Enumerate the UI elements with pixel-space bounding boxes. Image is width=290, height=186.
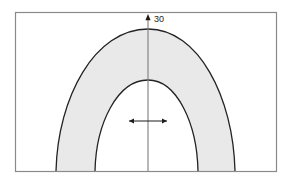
value-label-30: 30 (154, 14, 164, 24)
arrow-head-left-icon (129, 118, 134, 123)
arrow-head-right-icon (162, 118, 167, 123)
figure-container: 30 (0, 0, 290, 186)
shaded-band-region (56, 29, 235, 171)
up-arrow-icon (145, 14, 150, 20)
parabola-diagram-svg: 30 (0, 0, 290, 186)
